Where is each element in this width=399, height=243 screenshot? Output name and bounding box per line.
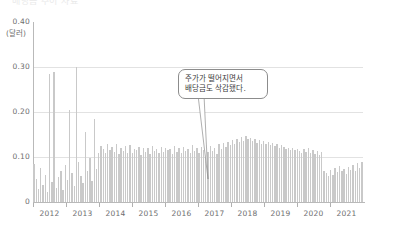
- bar: [312, 150, 313, 202]
- bar: [60, 171, 61, 203]
- bar: [272, 143, 273, 202]
- x-axis-tick-mark: [99, 203, 100, 207]
- bar: [350, 170, 351, 202]
- x-axis-tick-label: 2012: [40, 209, 60, 218]
- bar: [308, 148, 309, 202]
- bar: [42, 185, 43, 202]
- x-axis-tick-label: 2016: [172, 209, 192, 218]
- x-axis-tick-label: 2015: [139, 209, 159, 218]
- x-axis-tick-mark: [33, 203, 34, 207]
- bar: [212, 151, 213, 202]
- bar: [161, 147, 162, 202]
- bar: [252, 141, 253, 202]
- x-axis-tick-label: 2021: [337, 209, 357, 218]
- x-axis-tick-mark: [231, 203, 232, 207]
- bar: [174, 146, 175, 202]
- bar: [194, 151, 195, 202]
- bar: [71, 173, 72, 202]
- bar: [343, 169, 344, 202]
- bar: [317, 151, 318, 202]
- bar: [147, 148, 148, 202]
- bar: [111, 147, 112, 202]
- bar: [82, 183, 83, 202]
- bar: [109, 150, 110, 202]
- bar: [205, 149, 206, 202]
- bar: [120, 148, 121, 202]
- bar: [118, 154, 119, 202]
- bar: [274, 146, 275, 202]
- x-axis-line: [33, 202, 365, 203]
- y-axis-unit-label: (달러): [6, 27, 26, 38]
- bar: [352, 165, 353, 202]
- bar: [132, 153, 133, 202]
- bar: [314, 154, 315, 202]
- bar: [129, 145, 130, 202]
- bar: [210, 146, 211, 202]
- bar: [310, 153, 311, 202]
- x-axis-tick-mark: [132, 203, 133, 207]
- bar: [38, 189, 39, 203]
- bar: [33, 164, 34, 202]
- x-axis-tick-label: 2020: [304, 209, 324, 218]
- bar: [149, 154, 150, 202]
- bar: [323, 171, 324, 203]
- bar: [158, 153, 159, 202]
- bar: [196, 148, 197, 202]
- bar: [341, 171, 342, 202]
- bar: [241, 137, 242, 202]
- bar: [49, 74, 50, 202]
- bar: [305, 152, 306, 202]
- x-axis-tick-mark: [66, 203, 67, 207]
- bar: [261, 144, 262, 203]
- bar: [292, 148, 293, 202]
- bar: [69, 110, 70, 202]
- bar: [256, 143, 257, 202]
- x-axis-tick-mark: [198, 203, 199, 207]
- bar: [230, 145, 231, 202]
- bar: [361, 162, 362, 203]
- bar: [178, 148, 179, 202]
- bar: [214, 148, 215, 202]
- y-axis-tick-label: 0.10: [13, 152, 31, 161]
- y-axis-tick-label: 0.30: [13, 62, 31, 71]
- bar: [123, 151, 124, 202]
- bar: [125, 146, 126, 202]
- bar: [250, 138, 251, 202]
- dividend-bar-chart: 배당금 추이 자료 (달러) 0.400.300.200.100 2012201…: [0, 0, 399, 243]
- bar: [80, 176, 81, 202]
- bar: [207, 152, 208, 202]
- bar: [355, 171, 356, 202]
- bar: [36, 179, 37, 202]
- bar: [279, 148, 280, 202]
- bar: [259, 140, 260, 202]
- bar: [91, 181, 92, 202]
- bar: [346, 174, 347, 202]
- x-axis-tick-mark: [297, 203, 298, 207]
- bar: [334, 168, 335, 202]
- bar: [270, 145, 271, 202]
- bar: [185, 151, 186, 202]
- bar: [165, 148, 166, 202]
- bar: [67, 180, 68, 202]
- bar: [276, 144, 277, 202]
- bar: [156, 149, 157, 202]
- bar: [203, 150, 204, 202]
- bar: [169, 149, 170, 202]
- bar: [198, 153, 199, 202]
- x-axis-tick-label: 2019: [271, 209, 291, 218]
- x-axis-tick-mark: [264, 203, 265, 207]
- x-axis-tick-label: 2013: [73, 209, 93, 218]
- bar: [74, 186, 75, 202]
- bar: [294, 150, 295, 202]
- bar: [56, 188, 57, 202]
- bar: [116, 144, 117, 202]
- x-axis-tick-mark: [165, 203, 166, 207]
- bar: [105, 153, 106, 202]
- bar: [181, 153, 182, 202]
- bar: [359, 168, 360, 202]
- bar: [98, 153, 99, 203]
- bar: [263, 141, 264, 202]
- bar: [227, 142, 228, 202]
- bar: [285, 149, 286, 202]
- bar: [172, 154, 173, 202]
